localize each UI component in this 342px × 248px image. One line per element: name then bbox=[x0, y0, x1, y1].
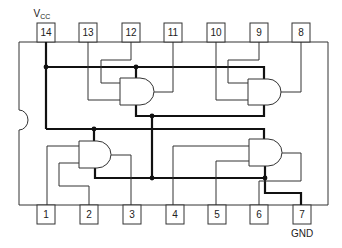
pin-9[interactable]: 9 bbox=[250, 23, 268, 42]
svg-text:9: 9 bbox=[256, 27, 262, 38]
pin-12[interactable]: 12 bbox=[122, 23, 140, 42]
and-gate-1 bbox=[120, 78, 154, 105]
pin-11[interactable]: 11 bbox=[164, 23, 182, 42]
svg-text:6: 6 bbox=[256, 209, 262, 220]
svg-text:1: 1 bbox=[43, 209, 49, 220]
svg-text:10: 10 bbox=[210, 27, 222, 38]
svg-text:4: 4 bbox=[172, 209, 178, 220]
svg-text:13: 13 bbox=[82, 27, 94, 38]
and-gate-2 bbox=[248, 79, 281, 105]
and-gate-4 bbox=[249, 139, 282, 166]
pin-13[interactable]: 13 bbox=[79, 23, 97, 42]
svg-text:12: 12 bbox=[125, 27, 137, 38]
ic-pinout-diagram: VCC GND 14 13 12 11 10 9 8 bbox=[0, 0, 342, 248]
pin-7[interactable]: 7 bbox=[293, 205, 311, 224]
pin-5[interactable]: 5 bbox=[208, 205, 226, 224]
svg-text:8: 8 bbox=[298, 27, 304, 38]
pin-3[interactable]: 3 bbox=[123, 205, 141, 224]
top-pins: 14 13 12 11 10 9 8 bbox=[37, 23, 310, 42]
svg-text:11: 11 bbox=[168, 27, 179, 38]
pin-8[interactable]: 8 bbox=[292, 23, 310, 42]
gnd-label: GND bbox=[291, 228, 313, 239]
pin-4[interactable]: 4 bbox=[166, 205, 184, 224]
svg-text:14: 14 bbox=[40, 27, 52, 38]
vcc-label: VCC bbox=[34, 8, 51, 20]
pin-6[interactable]: 6 bbox=[250, 205, 268, 224]
svg-text:2: 2 bbox=[86, 209, 92, 220]
pin-2[interactable]: 2 bbox=[80, 205, 98, 224]
and-gate-3 bbox=[79, 141, 111, 168]
pin-1[interactable]: 1 bbox=[37, 205, 55, 224]
bottom-pins: 1 2 3 4 5 6 7 bbox=[37, 205, 311, 224]
pin-14[interactable]: 14 bbox=[37, 23, 55, 42]
pin-10[interactable]: 10 bbox=[207, 23, 225, 42]
svg-text:5: 5 bbox=[214, 209, 220, 220]
svg-text:3: 3 bbox=[129, 209, 135, 220]
svg-text:7: 7 bbox=[299, 209, 305, 220]
